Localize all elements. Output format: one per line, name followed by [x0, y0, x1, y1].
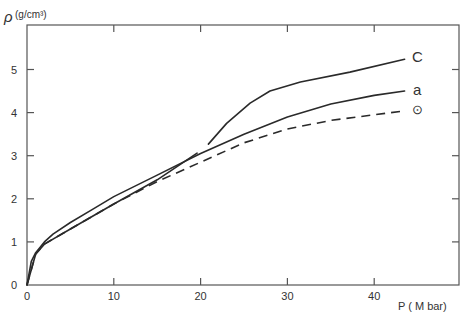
- curve-label-c: C: [412, 48, 423, 65]
- y-axis-unit: (g/cm³): [15, 9, 47, 20]
- curve-label-sun: ⊙: [412, 102, 423, 117]
- curve-label-a: a: [413, 81, 422, 98]
- y-tick-label: 3: [11, 150, 17, 162]
- curve-a: [27, 91, 405, 285]
- axis-ticks: 010203040012345: [11, 25, 459, 302]
- curve-c: [27, 153, 197, 285]
- x-tick-label: 10: [108, 290, 120, 302]
- x-tick-label: 40: [368, 290, 380, 302]
- chart-canvas: 010203040012345 ρ (g/cm³) P ( M bar) C a…: [0, 0, 467, 318]
- y-tick-label: 1: [11, 236, 17, 248]
- curve-sun: [27, 111, 405, 285]
- y-tick-label: 0: [11, 279, 17, 291]
- x-tick-label: 20: [194, 290, 206, 302]
- curve-c: [208, 59, 404, 144]
- x-tick-label: 30: [281, 290, 293, 302]
- y-tick-label: 2: [11, 193, 17, 205]
- y-tick-label: 5: [11, 64, 17, 76]
- x-tick-label: 0: [24, 290, 30, 302]
- plot-border: [27, 25, 459, 285]
- plot-frame: [27, 25, 459, 285]
- y-axis-symbol: ρ: [3, 8, 13, 25]
- y-tick-label: 4: [11, 107, 17, 119]
- x-axis-title: P ( M bar): [398, 300, 447, 312]
- curves: [27, 59, 405, 285]
